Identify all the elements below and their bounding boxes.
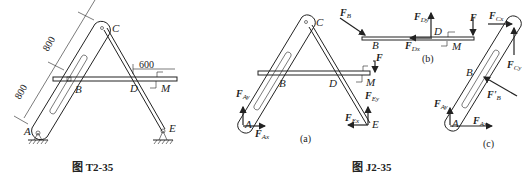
force-f-ey-a: FEy	[364, 90, 380, 103]
panel-a-label: (a)	[300, 133, 311, 145]
moment-label: M	[160, 82, 171, 94]
point-c-label: C	[112, 22, 120, 34]
point-d-label: D	[129, 82, 138, 94]
caption-right: 图 J2-35	[352, 161, 392, 173]
pin-support-a	[28, 131, 48, 144]
panel-a: FAy FAx FEy FEx F M A B C D E (a)	[235, 15, 383, 145]
point-b-label-c: B	[466, 66, 473, 78]
point-b-label-b: B	[372, 39, 379, 51]
panel-c-label: (c)	[483, 138, 494, 150]
diagram-canvas: 800 800 600 M A B C D E 图 T2-35 FAy FAx	[0, 0, 531, 173]
panel-b-label: (b)	[422, 53, 434, 65]
force-f-a: F	[375, 52, 383, 63]
panel-c: FCx FCy F'B FAy FAx A B (c)	[433, 10, 522, 150]
rod-ce	[104, 28, 165, 131]
dimension-upper: 800	[40, 35, 57, 53]
point-d-label-b: D	[433, 25, 442, 37]
point-a-label: A	[23, 125, 31, 137]
force-f-cy-c: FCy	[506, 59, 522, 72]
point-b-label-a: B	[279, 77, 286, 89]
point-e-label: E	[168, 122, 176, 134]
figure-t2-35: 800 800 600 M A B C D E 图 T2-35	[12, 0, 177, 173]
horizontal-bar-bd	[53, 77, 177, 81]
point-d-label-a: D	[328, 77, 337, 89]
force-f-ay-a: FAy	[235, 88, 251, 101]
point-a-label-c: A	[451, 117, 459, 129]
point-c-label-a: C	[316, 16, 324, 28]
dimension-horizontal: 600	[139, 59, 154, 70]
moment-label-b: M	[451, 40, 462, 52]
force-f-ax-a: FAx	[254, 128, 270, 141]
force-f-ex-a: FEx	[344, 112, 360, 125]
moment-label-a: M	[365, 76, 376, 88]
force-f-b: F	[469, 12, 477, 23]
panel-b: FB FDy FDx F M B D (b)	[339, 7, 477, 65]
point-e-label-a: E	[371, 118, 379, 130]
caption-left: 图 T2-35	[72, 161, 114, 173]
point-a-label-a: A	[244, 118, 252, 130]
dimension-lower: 800	[12, 83, 29, 101]
force-f-dx-b: FDx	[404, 40, 421, 53]
force-f-ay-c: FAy	[433, 98, 449, 111]
force-f-cx-c: FCx	[488, 10, 504, 23]
force-f-dy-b: FDy	[413, 11, 430, 24]
force-f-b-prime-c: F'B	[486, 89, 501, 102]
point-b-label: B	[75, 83, 82, 95]
